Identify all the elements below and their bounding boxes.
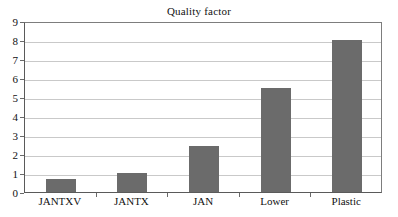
x-tick-label: JANTXV [38, 195, 81, 208]
x-tick-mark [310, 193, 311, 197]
bar [117, 173, 147, 192]
chart-title: Quality factor [0, 5, 398, 18]
y-tick-label: 9 [13, 17, 19, 28]
x-axis: JANTXVJANTXJANLowerPlastic [24, 195, 382, 215]
bar-chart: Quality factor 0123456789 JANTXVJANTXJAN… [0, 0, 398, 217]
bar [332, 40, 362, 192]
y-tick-label: 3 [13, 131, 19, 142]
bar [189, 146, 219, 192]
x-tick-mark [96, 193, 97, 197]
y-axis: 0123456789 [0, 22, 22, 193]
y-tick-mark [20, 155, 24, 156]
y-tick-label: 7 [13, 55, 19, 66]
x-tick-label: JAN [193, 195, 213, 208]
y-tick-mark [20, 174, 24, 175]
y-tick-label: 5 [13, 93, 19, 104]
y-tick-mark [20, 117, 24, 118]
x-tick-label: JANTX [114, 195, 149, 208]
x-tick-mark [167, 193, 168, 197]
y-tick-label: 8 [13, 36, 19, 47]
y-tick-mark [20, 136, 24, 137]
x-tick-label: Plastic [332, 195, 361, 208]
y-tick-label: 1 [13, 169, 19, 180]
bars-group [25, 23, 381, 192]
y-tick-mark [20, 60, 24, 61]
bar [261, 88, 291, 193]
y-tick-label: 2 [13, 150, 19, 161]
y-tick-mark [20, 22, 24, 23]
x-tick-label: Lower [260, 195, 289, 208]
bar [46, 179, 76, 192]
y-tick-label: 6 [13, 74, 19, 85]
y-tick-label: 0 [13, 188, 19, 199]
y-tick-mark [20, 193, 24, 194]
y-tick-label: 4 [13, 112, 19, 123]
x-tick-mark [239, 193, 240, 197]
y-tick-mark [20, 41, 24, 42]
y-tick-mark [20, 98, 24, 99]
y-tick-mark [20, 79, 24, 80]
plot-area [24, 22, 382, 193]
